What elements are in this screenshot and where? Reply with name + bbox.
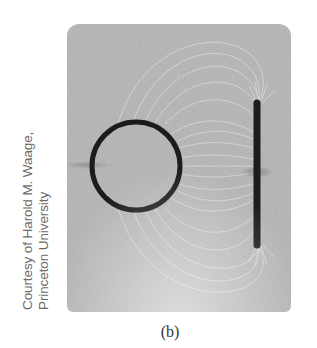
credit-line-2: Princeton University [36,132,52,310]
figure-label: (b) [0,323,317,341]
photo-fade [67,24,291,312]
credit-line-1: Courtesy of Harold M. Waage, [20,132,36,310]
photo-canvas [67,24,291,312]
field-line-photo [67,24,291,312]
photo-credit: Courtesy of Harold M. Waage, Princeton U… [20,132,52,310]
